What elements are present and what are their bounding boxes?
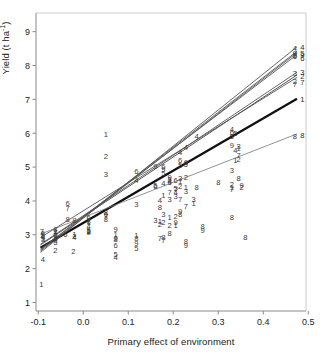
data-point-label: 7	[230, 185, 234, 194]
data-point-label: 4	[134, 176, 138, 185]
line-endpoint-label: 6	[300, 54, 304, 63]
data-point-label: 8	[243, 233, 247, 242]
data-point-label: 9	[153, 162, 157, 171]
data-point-label: 8	[216, 178, 220, 187]
y-axis-tick-label: 1	[25, 298, 30, 308]
line-endpoint-label: 8	[300, 131, 304, 140]
data-point-label: 5	[114, 250, 118, 259]
data-point-label: 9	[173, 218, 177, 227]
line-endpoint-label: 1	[300, 95, 304, 104]
data-point-label: 8	[72, 216, 76, 225]
data-point-label: 9	[134, 239, 138, 248]
y-axis-tick-label: 9	[25, 27, 30, 37]
data-point-label: 6	[173, 176, 177, 185]
data-point-label: 7	[236, 151, 240, 160]
y-axis-tick-label: 4	[25, 196, 30, 206]
data-point-label: 6	[134, 167, 138, 176]
data-point-label: 4	[161, 179, 165, 188]
data-point-label: 6	[230, 128, 234, 137]
data-point-label: 8	[293, 132, 297, 141]
data-point-label: 6	[184, 158, 188, 167]
data-point-label: 8	[65, 215, 69, 224]
data-point-label: 9	[114, 225, 118, 234]
data-point-label: 6	[153, 182, 157, 191]
data-point-label: 4	[184, 143, 188, 152]
data-point-label: 1	[39, 280, 43, 289]
y-axis-tick-label: 5	[25, 162, 30, 172]
data-point-label: 2	[161, 218, 165, 227]
axis-frame-outer	[36, 13, 306, 311]
data-point-label: 8	[104, 215, 108, 224]
data-point-label: 7	[168, 188, 172, 197]
data-point-label: 9	[178, 207, 182, 216]
data-point-label: 2	[104, 152, 108, 161]
data-point-label: 8	[87, 217, 91, 226]
x-axis-tick-label: 0.0	[77, 317, 90, 327]
figure-root: Yield (t ha-1) Primary effect of environ…	[0, 0, 321, 356]
data-point-label: 3	[293, 69, 297, 78]
data-point-label: 9	[53, 236, 57, 245]
data-point-label: 9	[200, 226, 204, 235]
data-point-label: 2	[71, 247, 75, 256]
data-point-label: 9	[293, 49, 297, 58]
data-point-label: 9	[184, 241, 188, 250]
data-point-label: 6	[63, 230, 67, 239]
data-point-label: 8	[161, 233, 165, 242]
x-axis-tick-label: 0.5	[302, 317, 315, 327]
y-axis-tick-label: 8	[25, 61, 30, 71]
data-point-label: 7	[184, 202, 188, 211]
data-point-label: 8	[158, 203, 162, 212]
data-point-label: 3	[153, 216, 157, 225]
x-axis-tick-label: 0.1	[122, 317, 135, 327]
data-point-label: 3	[178, 174, 182, 183]
y-axis-tick-label: 6	[25, 129, 30, 139]
y-axis-tick-label: 2	[25, 264, 30, 274]
scatter-plot-canvas: 123456789-0.10.00.10.20.30.40.5111111111…	[0, 0, 321, 356]
x-axis-tick-label: 0.3	[212, 317, 225, 327]
data-point-label: 7	[178, 195, 182, 204]
data-point-label: 8	[53, 225, 57, 234]
x-axis-tick-label: 0.4	[257, 317, 270, 327]
y-axis-tick-label: 3	[25, 230, 30, 240]
data-point-label: 3	[230, 166, 234, 175]
data-point-label: 2	[53, 246, 57, 255]
data-point-label: 3	[184, 187, 188, 196]
data-point-label: 8	[230, 213, 234, 222]
data-point-label: 9	[161, 165, 165, 174]
axis-frame	[36, 13, 306, 311]
data-point-label: 8	[195, 183, 199, 192]
x-axis-tick-label: 0.2	[167, 317, 180, 327]
data-point-label: 9	[230, 141, 234, 150]
data-point-label: 3	[191, 195, 195, 204]
data-point-label: 4	[41, 255, 45, 264]
data-point-label: 9	[168, 173, 172, 182]
data-point-label: 9	[240, 181, 244, 190]
data-point-label: 6	[178, 156, 182, 165]
data-point-label: 3	[104, 170, 108, 179]
line-endpoint-label: 7	[300, 78, 304, 87]
data-point-label: 7	[293, 80, 297, 89]
data-point-label: 7	[173, 185, 177, 194]
data-point-label: 4	[195, 132, 199, 141]
data-point-label: 7	[65, 204, 69, 213]
data-point-label: 2	[178, 182, 182, 191]
data-point-label: 3	[134, 200, 138, 209]
data-point-label: 9	[41, 234, 45, 243]
y-axis-tick-label: 7	[25, 95, 30, 105]
data-point-label: 9	[87, 228, 91, 237]
data-point-label: 1	[104, 130, 108, 139]
data-point-label: 4	[72, 233, 76, 242]
data-point-label: 8	[168, 229, 172, 238]
data-point-label: 9	[114, 234, 118, 243]
x-axis-tick-label: -0.1	[30, 317, 46, 327]
data-point-label: 2	[184, 173, 188, 182]
